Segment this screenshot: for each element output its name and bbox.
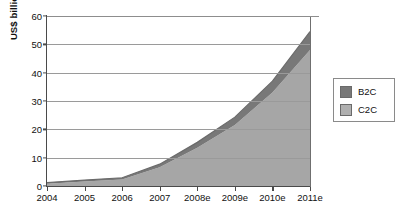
legend-label-b2c: B2C: [358, 87, 376, 97]
x-tick-label: 2006: [112, 192, 133, 203]
x-tick-label: 2010e: [259, 192, 285, 203]
y-tick-label: 10: [31, 152, 42, 163]
x-tick-label: 2008e: [184, 192, 210, 203]
y-tick-mark: [43, 15, 47, 16]
legend-item-b2c: B2C: [340, 84, 394, 100]
legend-label-c2c: C2C: [358, 105, 377, 115]
gridline: [47, 16, 319, 17]
y-tick-label: 0: [37, 181, 42, 192]
x-tick-mark: [197, 187, 198, 191]
plot-right-border: [310, 16, 311, 187]
x-tick-mark: [160, 187, 161, 191]
x-tick-label: 2009e: [222, 192, 248, 203]
gridline: [47, 101, 310, 102]
y-tick-label: 50: [31, 39, 42, 50]
y-tick-label: 60: [31, 11, 42, 22]
x-tick-mark: [85, 187, 86, 191]
x-tick-label: 2011e: [297, 192, 323, 203]
legend-swatch-b2c: [340, 86, 352, 98]
y-tick-mark: [43, 72, 47, 73]
y-tick-label: 30: [31, 96, 42, 107]
gridline: [47, 44, 310, 45]
gridline: [47, 129, 310, 130]
gridline: [47, 73, 310, 74]
x-tick-mark: [235, 187, 236, 191]
x-tick-mark: [47, 187, 48, 191]
y-axis-title: US$ billion: [8, 0, 19, 60]
x-tick-mark: [310, 187, 311, 191]
x-tick-mark: [122, 187, 123, 191]
y-tick-mark: [43, 185, 47, 186]
x-tick-mark: [272, 187, 273, 191]
y-tick-label: 40: [31, 67, 42, 78]
x-tick-label: 2004: [36, 192, 57, 203]
y-tick-label: 20: [31, 124, 42, 135]
chart-legend: B2C C2C: [333, 78, 395, 122]
y-tick-mark: [43, 44, 47, 45]
x-axis-line: [47, 186, 311, 187]
legend-item-c2c: C2C: [340, 102, 394, 118]
gridline: [47, 158, 310, 159]
y-tick-mark: [43, 100, 47, 101]
area-chart: US$ billion 0102030405060 20042005200620…: [0, 0, 408, 215]
x-tick-label: 2007: [149, 192, 170, 203]
legend-swatch-c2c: [340, 104, 352, 116]
area-series-c2c: [47, 50, 310, 186]
y-axis-tick-labels: 0102030405060: [22, 0, 42, 215]
y-tick-mark: [43, 129, 47, 130]
x-tick-label: 2005: [74, 192, 95, 203]
y-tick-mark: [43, 157, 47, 158]
